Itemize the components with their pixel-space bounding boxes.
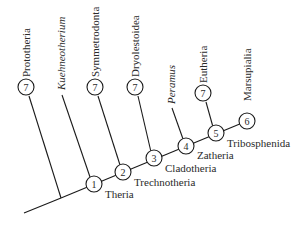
cladogram: 7 7 7 7 Prototheria Kuehneotherium Symme… (0, 0, 307, 228)
branch-peramus (172, 108, 183, 139)
taxon-badge-dryolestoidea: 7 (127, 79, 143, 95)
taxon-badge-prototheria: 7 (18, 79, 34, 95)
branch-kuehneotherium (62, 95, 90, 177)
branch-dryolestoidea (138, 96, 151, 152)
taxon-badge-eutheria: 7 (195, 85, 211, 101)
taxon-label-eutheria: Eutheria (197, 46, 209, 83)
svg-text:3: 3 (152, 153, 157, 164)
node-3: 3 (146, 150, 162, 166)
svg-text:7: 7 (93, 82, 98, 93)
taxon-label-peramus: Peramus (165, 65, 177, 105)
taxon-label-symmetrodonta: Symmetrodonta (89, 7, 101, 77)
node-6: 6 (239, 113, 255, 129)
svg-text:7: 7 (201, 88, 206, 99)
branch-symmetrodonta (98, 96, 120, 165)
node-2: 2 (115, 164, 131, 180)
svg-text:2: 2 (121, 167, 126, 178)
svg-text:7: 7 (133, 82, 138, 93)
svg-text:5: 5 (214, 128, 219, 139)
node-4: 4 (178, 138, 194, 154)
clade-label-trechnotheria: Trechnotheria (134, 176, 195, 188)
svg-text:6: 6 (245, 116, 250, 127)
taxon-label-dryolestoidea: Dryolestoidea (129, 15, 141, 77)
svg-text:1: 1 (92, 179, 97, 190)
taxon-label-prototheria: Prototheria (20, 28, 32, 77)
taxon-label-marsupialia: Marsupialia (241, 48, 253, 101)
taxon-label-kuehneotherium: Kuehneotherium (55, 17, 67, 91)
clade-label-zatheria: Zatheria (197, 149, 234, 161)
clade-label-tribosphenida: Tribosphenida (227, 137, 290, 149)
branch-prototheria (29, 96, 61, 198)
node-5: 5 (208, 125, 224, 141)
clade-label-cladotheria: Cladotheria (165, 162, 216, 174)
clade-label-theria: Theria (105, 188, 134, 200)
svg-text:7: 7 (24, 82, 29, 93)
node-1: 1 (86, 176, 102, 192)
svg-text:4: 4 (184, 141, 189, 152)
taxon-badge-symmetrodonta: 7 (87, 79, 103, 95)
branch-eutheria (206, 102, 213, 127)
